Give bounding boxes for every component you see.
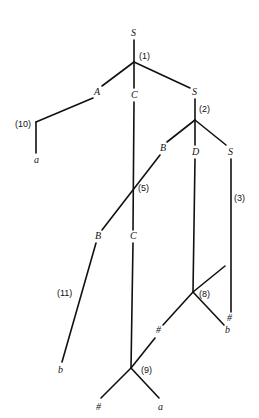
step-label-3: (3) <box>234 193 245 203</box>
node-a2: a <box>158 401 163 412</box>
node-D: D <box>191 146 200 157</box>
node-C1: C <box>131 89 138 100</box>
edge-9-to-hash3 <box>101 368 131 398</box>
node-b1: b <box>58 364 63 375</box>
edge-C1-to-C2 <box>133 102 134 230</box>
step-label-11: (11) <box>57 288 72 298</box>
edge-8-to-hash2 <box>163 292 193 325</box>
step-label-5: (5) <box>138 183 149 193</box>
node-S3: S <box>228 146 233 157</box>
node-b2: b <box>225 324 230 335</box>
edge-hash2-to-9 <box>131 338 155 368</box>
node-S2: S <box>192 86 197 97</box>
node-B2: B <box>95 230 101 241</box>
edge-1-to-A <box>102 62 134 86</box>
edge-C2-to-9 <box>131 243 133 368</box>
edge-1-to-S2 <box>134 62 190 88</box>
step-label-10: (10) <box>15 119 31 129</box>
edge-B1-to-B2 <box>102 155 160 230</box>
edge-2-to-S3 <box>195 120 226 145</box>
step-label-1: (1) <box>139 51 150 61</box>
edge-A-to-10 <box>36 98 93 122</box>
step-label-2: (2) <box>199 104 210 114</box>
tree-labels: S (1) A C S (10) a (2) B D S (5) (3) B C… <box>15 27 245 412</box>
node-C2: C <box>130 230 137 241</box>
node-hash2: # <box>156 324 162 335</box>
node-S-root: S <box>131 27 136 38</box>
edge-D-to-8 <box>193 159 195 292</box>
edge-2-to-B1 <box>167 120 195 142</box>
node-a1: a <box>34 154 39 165</box>
edge-B2-to-b1 <box>62 243 96 362</box>
node-hash3: # <box>96 401 102 412</box>
node-B1: B <box>160 142 166 153</box>
derivation-tree-diagram: S (1) A C S (10) a (2) B D S (5) (3) B C… <box>0 0 259 418</box>
node-hash1: # <box>227 312 233 323</box>
step-label-9: (9) <box>141 365 152 375</box>
step-label-8: (8) <box>199 289 210 299</box>
node-A: A <box>93 86 101 97</box>
